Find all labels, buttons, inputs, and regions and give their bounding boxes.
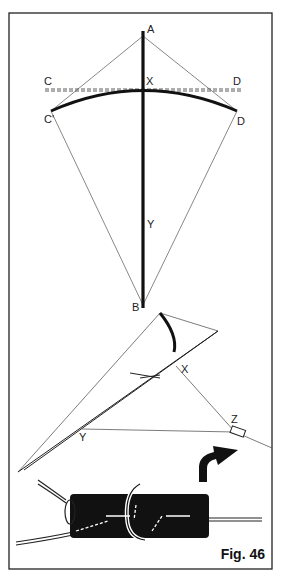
label-B: B [132,302,139,313]
label-D-prime: D [237,116,245,127]
kite-top-view [45,31,241,308]
label-C-prime: C' [44,114,54,125]
label-X: X [146,76,153,87]
side-label-Y: Y [79,432,86,443]
side-label-Z: Z [231,414,238,425]
figure-caption: Fig. 46 [221,546,265,562]
label-A: A [147,24,154,35]
knot-detail [16,480,262,545]
kite-diagram [0,0,283,581]
label-Y: Y [147,219,154,230]
label-D: D [233,76,241,87]
arrow-icon [199,446,238,482]
kite-side-view [18,313,272,472]
side-label-X: X [181,364,188,375]
label-C: C [44,76,52,87]
